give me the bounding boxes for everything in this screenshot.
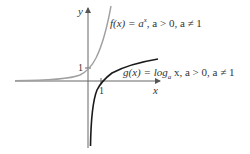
x-axis-label: x (153, 85, 158, 96)
x-tick-label: 1 (99, 86, 104, 96)
exponential-label: f(x) = ax, a > 0, a ≠ 1 (110, 17, 202, 29)
logarithm-label: g(x) = loga x, a > 0, a ≠ 1 (123, 67, 234, 81)
y-tick-label: 1 (78, 63, 83, 73)
exponential-curve (15, 6, 111, 81)
y-axis-label: y (78, 6, 83, 17)
